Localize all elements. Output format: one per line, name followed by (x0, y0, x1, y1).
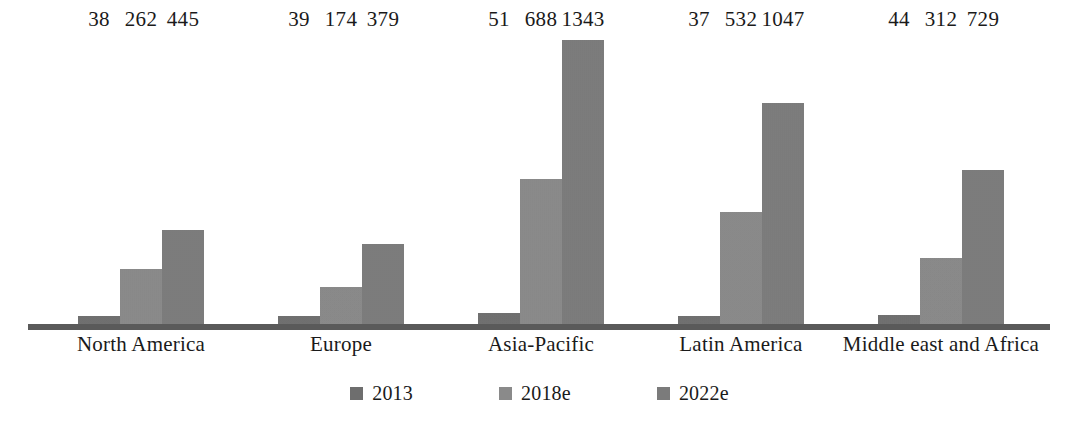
bar-group: 38262445 (78, 34, 204, 324)
bar-value-label: 38 (88, 9, 110, 30)
bar-value-label: 729 (967, 9, 999, 30)
bar-value-label: 51 (488, 9, 510, 30)
bar-column[interactable]: 729 (962, 34, 1004, 324)
bar-group: 516881343 (478, 34, 604, 324)
bar-2018e[interactable]: 174 (320, 287, 362, 324)
bar-value-label: 1343 (561, 9, 604, 30)
bar-column[interactable]: 174 (320, 34, 362, 324)
bar-2022e[interactable]: 729 (962, 170, 1004, 324)
bar-2018e[interactable]: 312 (920, 258, 962, 324)
plot-area: 3826244539174379516881343375321047443127… (0, 0, 1079, 330)
category-label-row: North AmericaEuropeAsia-PacificLatin Ame… (0, 330, 1079, 368)
bar-value-label: 37 (688, 9, 710, 30)
bar-column[interactable]: 445 (162, 34, 204, 324)
bar-2018e[interactable]: 688 (520, 179, 562, 324)
legend-swatch-2013-icon (350, 387, 363, 400)
bar-value-label: 262 (125, 9, 157, 30)
bar-value-label: 445 (167, 9, 199, 30)
bar-column[interactable]: 262 (120, 34, 162, 324)
bar-value-label: 532 (725, 9, 757, 30)
bar-value-label: 688 (525, 9, 557, 30)
bar-2022e[interactable]: 379 (362, 244, 404, 324)
legend-label: 2022e (679, 383, 729, 403)
bar-2013[interactable]: 44 (878, 315, 920, 324)
chart-page: 3826244539174379516881343375321047443127… (0, 0, 1079, 427)
bar-column[interactable]: 312 (920, 34, 962, 324)
chart-legend: 20132018e2022e (0, 378, 1079, 408)
bar-group: 375321047 (678, 34, 804, 324)
legend-swatch-2018e-icon (499, 387, 512, 400)
bar-2022e[interactable]: 1343 (562, 40, 604, 324)
bar-column[interactable]: 38 (78, 34, 120, 324)
legend-item-2018e[interactable]: 2018e (499, 383, 571, 403)
legend-item-2013[interactable]: 2013 (350, 383, 413, 403)
bar-2013[interactable]: 39 (278, 316, 320, 324)
legend-swatch-2022e-icon (657, 387, 670, 400)
bar-value-label: 379 (367, 9, 399, 30)
bar-column[interactable]: 688 (520, 34, 562, 324)
bar-column[interactable]: 1047 (762, 34, 804, 324)
bar-group: 44312729 (878, 34, 1004, 324)
bar-group: 39174379 (278, 34, 404, 324)
bar-2018e[interactable]: 532 (720, 212, 762, 325)
bar-column[interactable]: 379 (362, 34, 404, 324)
bar-column[interactable]: 44 (878, 34, 920, 324)
bar-2013[interactable]: 51 (478, 313, 520, 324)
bar-value-label: 312 (925, 9, 957, 30)
bar-column[interactable]: 51 (478, 34, 520, 324)
legend-item-2022e[interactable]: 2022e (657, 383, 729, 403)
bar-value-label: 1047 (761, 9, 804, 30)
bar-2022e[interactable]: 1047 (762, 103, 804, 324)
legend-label: 2013 (372, 383, 413, 403)
category-label-5: Middle east and Africa (811, 332, 1071, 357)
bar-column[interactable]: 1343 (562, 34, 604, 324)
bar-2013[interactable]: 37 (678, 316, 720, 324)
bar-column[interactable]: 39 (278, 34, 320, 324)
bar-2022e[interactable]: 445 (162, 230, 204, 324)
bar-value-label: 39 (288, 9, 310, 30)
bar-column[interactable]: 37 (678, 34, 720, 324)
bar-2018e[interactable]: 262 (120, 269, 162, 324)
bar-value-label: 174 (325, 9, 357, 30)
legend-label: 2018e (521, 383, 571, 403)
bar-column[interactable]: 532 (720, 34, 762, 324)
bar-2013[interactable]: 38 (78, 316, 120, 324)
bar-value-label: 44 (888, 9, 910, 30)
